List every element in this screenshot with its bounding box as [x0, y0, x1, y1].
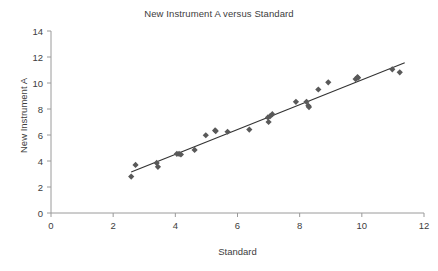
x-tick-label: 2 — [111, 220, 116, 231]
plot-area: 02468101214 024681012 — [0, 0, 438, 271]
data-point-marker — [397, 69, 403, 75]
data-point-marker — [315, 86, 321, 92]
data-point-marker — [132, 162, 138, 168]
scatter-chart: New Instrument A versus Standard New Ins… — [0, 0, 438, 271]
x-tick-label: 0 — [48, 220, 53, 231]
y-tick-label: 12 — [32, 52, 43, 63]
y-tick-label: 2 — [38, 182, 43, 193]
y-tick-label: 4 — [38, 156, 43, 167]
data-point-marker — [128, 174, 134, 180]
x-tick-label: 4 — [173, 220, 178, 231]
y-tick-label: 14 — [32, 26, 43, 37]
y-tick-label: 0 — [38, 208, 43, 219]
y-tick-label: 8 — [38, 104, 43, 115]
data-point-marker — [246, 126, 252, 132]
data-points — [128, 66, 403, 179]
x-tick-label: 8 — [297, 220, 302, 231]
y-axis-ticks: 02468101214 — [32, 26, 51, 219]
y-tick-label: 10 — [32, 78, 43, 89]
x-tick-label: 10 — [357, 220, 368, 231]
x-axis-ticks: 024681012 — [48, 213, 429, 231]
data-point-marker — [293, 99, 299, 105]
y-tick-label: 6 — [38, 130, 43, 141]
data-point-marker — [265, 119, 271, 125]
axes — [51, 31, 424, 213]
x-tick-label: 12 — [419, 220, 430, 231]
x-tick-label: 6 — [235, 220, 240, 231]
data-point-marker — [325, 79, 331, 85]
data-point-marker — [203, 132, 209, 138]
